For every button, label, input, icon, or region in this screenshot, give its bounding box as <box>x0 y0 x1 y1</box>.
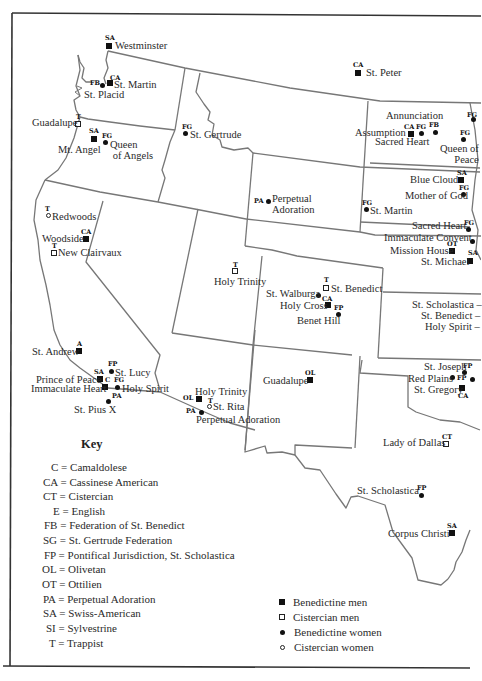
site-code: FB <box>429 122 439 129</box>
site-code: FB <box>90 80 100 87</box>
key-item: OL = Olivetan <box>42 563 106 575</box>
legend-label: Benedictine women <box>294 626 382 638</box>
site-code: SA <box>468 250 478 257</box>
site-label[interactable]: Mission House <box>390 245 453 256</box>
site-label[interactable]: St. Martin <box>370 205 413 216</box>
site-code: FP <box>334 305 344 312</box>
key-item: CT = Cistercian <box>43 490 113 502</box>
key-item: E = English <box>53 505 105 517</box>
benedictine-women-marker-icon <box>419 493 424 498</box>
site-label[interactable]: Benet Hill <box>297 315 340 326</box>
benedictine-women-marker-icon <box>471 117 476 122</box>
key-item: FB = Federation of St. Benedict <box>44 519 185 531</box>
site-label[interactable]: St. Gertrude <box>190 129 241 140</box>
site-label[interactable]: St. Andrew <box>32 346 79 357</box>
site-label[interactable]: St. Rita <box>213 401 245 412</box>
site-code: OL <box>183 395 193 402</box>
site-label[interactable]: Corpus Christi <box>388 528 450 539</box>
benedictine-women-marker-icon <box>470 377 475 382</box>
site-code: PA <box>254 198 263 205</box>
site-label[interactable]: Red Plains <box>408 373 453 384</box>
site-label[interactable]: Woodside <box>42 233 84 244</box>
legend-label: Cistercian women <box>294 641 374 653</box>
site-label[interactable]: Lady of Dallas <box>383 437 445 448</box>
site-code: SA <box>457 170 467 177</box>
site-label[interactable]: Immaculate Convent <box>384 232 472 243</box>
site-label[interactable]: St. Placid <box>84 89 124 100</box>
site-label[interactable]: Redwoods <box>52 211 96 222</box>
site-label[interactable]: Mother of God <box>405 190 468 201</box>
site-label[interactable]: Guadalupe <box>32 117 77 128</box>
benedictine-men-marker-icon <box>107 80 113 86</box>
key-item: SA = Swiss-American <box>43 607 141 619</box>
site-label[interactable]: Queen of Angels <box>110 139 153 161</box>
site-label[interactable]: Annunciation <box>386 110 443 121</box>
site-label[interactable]: Sacred Heart <box>375 136 430 147</box>
site-label[interactable]: Holy Spirit <box>122 383 169 394</box>
cistercian-women-marker-icon <box>46 213 51 218</box>
site-code: PA <box>112 393 121 400</box>
site-label[interactable]: Holy Spirit – <box>425 321 480 332</box>
cistercian-men-marker-icon <box>51 250 57 256</box>
site-label-line: Adoration <box>272 204 315 215</box>
benedictine-women-marker-icon <box>364 207 369 212</box>
key-item: C = Camaldolese <box>51 461 127 473</box>
site-label[interactable]: Westminster <box>115 40 167 51</box>
open-square-icon <box>279 614 285 620</box>
site-label[interactable]: Sacred Heart <box>412 220 467 231</box>
filled-square-icon <box>279 599 285 605</box>
legend-item: Benedictine men <box>279 596 367 608</box>
open-circle-icon <box>280 645 285 650</box>
benedictine-men-marker-icon <box>106 43 112 49</box>
site-label[interactable]: Queen of Peace <box>440 143 479 165</box>
site-label-line: Perpetual <box>272 193 312 204</box>
key-item: T = Trappist <box>49 637 103 649</box>
site-label[interactable]: Guadalupe <box>263 375 308 386</box>
site-label[interactable]: PerpetualAdoration <box>272 193 315 215</box>
site-label[interactable]: St. Peter <box>366 67 402 78</box>
site-label[interactable]: Holy Cross <box>280 300 328 311</box>
benedictine-men-marker-icon <box>91 136 97 142</box>
site-code: FG <box>460 130 470 137</box>
site-label-line: of Angels <box>110 150 153 161</box>
site-label[interactable]: New Clairvaux <box>58 247 122 258</box>
site-label[interactable]: St. Scholastica – <box>412 299 482 310</box>
site-label[interactable]: Perpetual Adoration <box>196 414 280 425</box>
site-label[interactable]: Holy Trinity <box>195 386 247 397</box>
benedictine-men-marker-icon <box>458 177 464 183</box>
key-title: Key <box>81 437 103 452</box>
site-label-line: Peace <box>446 154 478 165</box>
legend-item: Benedictine women <box>279 626 382 638</box>
site-label[interactable]: St. Gregory <box>414 384 463 395</box>
site-label[interactable]: St. Benedict – <box>421 310 480 321</box>
key-item: CA = Cassinese American <box>43 476 158 488</box>
cistercian-women-marker-icon <box>207 404 212 409</box>
site-label[interactable]: Mt. Angel <box>58 144 101 155</box>
site-code: T <box>52 243 57 250</box>
site-label[interactable]: St. Benedict <box>331 283 382 294</box>
benedictine-women-marker-icon <box>183 131 188 136</box>
site-label[interactable]: Immaculate Heart <box>31 383 107 394</box>
key-item: FP = Pontifical Jurisdiction, St. Schola… <box>44 549 235 561</box>
benedictine-women-marker-icon <box>433 130 438 135</box>
legend-item: Cistercian women <box>279 641 374 653</box>
key-item: SG = St. Gertrude Federation <box>43 534 172 546</box>
site-label[interactable]: St. Scholastica <box>357 485 419 496</box>
site-code: FP <box>457 375 467 382</box>
benedictine-women-marker-icon <box>100 83 105 88</box>
benedictine-women-marker-icon <box>109 369 114 374</box>
cistercian-men-marker-icon <box>323 285 329 291</box>
key-item: OT = Ottilien <box>42 578 102 590</box>
site-label-line: Queen of <box>440 143 479 154</box>
site-label[interactable]: St. Pius X <box>74 404 116 415</box>
site-code: PA <box>186 408 195 415</box>
site-label[interactable]: Blue Cloud <box>410 174 458 185</box>
benedictine-women-marker-icon <box>103 140 108 145</box>
site-label[interactable]: Holy Trinity <box>214 276 266 287</box>
cistercian-men-marker-icon <box>232 268 238 274</box>
site-label[interactable]: St. Walburga <box>266 288 320 299</box>
site-label[interactable]: St. Michael <box>421 256 469 267</box>
legend-label: Cistercian men <box>293 611 359 623</box>
site-code: SA <box>89 128 99 135</box>
site-label[interactable]: St. Joseph <box>424 361 467 372</box>
